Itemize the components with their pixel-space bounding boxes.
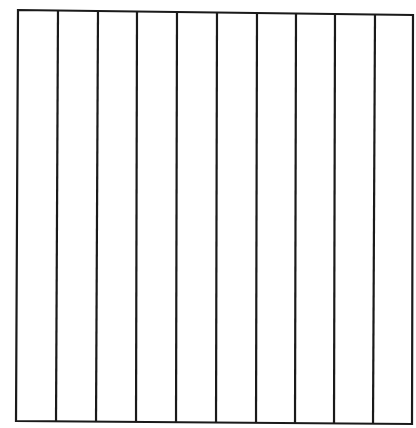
grid-outline <box>16 10 413 424</box>
column-divider-6 <box>256 13 257 423</box>
outer-rectangle <box>16 10 413 424</box>
column-divider-9 <box>373 15 375 424</box>
column-divider-1 <box>56 11 58 421</box>
column-divider-7 <box>295 14 296 423</box>
column-grid-diagram <box>0 0 416 428</box>
column-divider-5 <box>216 13 217 423</box>
column-divider-3 <box>136 12 137 422</box>
grid-dividers <box>56 11 375 424</box>
column-divider-8 <box>334 14 335 423</box>
column-divider-4 <box>176 12 177 422</box>
column-divider-2 <box>96 11 98 422</box>
